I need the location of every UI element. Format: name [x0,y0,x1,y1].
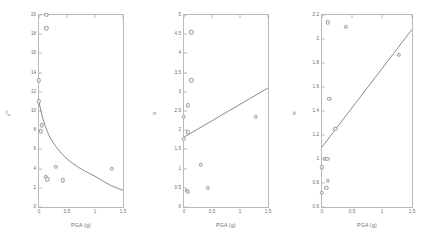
plot-area-panel-2: 00.511.522.533.544.55 00.511.5 [183,14,269,208]
y-tick-label: 10 [31,109,39,114]
x-tick-label: 1 [239,207,242,215]
x-axis-label-panel-3: PGA (g) [321,222,413,228]
x-tick-label: 0.5 [209,207,215,215]
y-tick-label: 1.8 [313,61,322,66]
y-axis-label-main-3: k [293,110,296,116]
y-tick-label: 2.5 [175,109,184,114]
panel-k: k 0.60.811.21.41.61.822.2 00.511.5 PGA (… [289,0,434,247]
y-tick-label: 18 [31,32,39,37]
x-tick-label: 1 [381,207,384,215]
y-tick-label: 0.8 [313,181,322,186]
y-axis-label-panel-1: tw [6,109,10,117]
y-tick-label: 1.5 [175,147,184,152]
fit-curve-panel-3 [322,15,412,207]
y-axis-label-sub-1: w [8,113,11,117]
x-axis-label-panel-1: PGA (g) [38,222,124,228]
y-tick-label: 1.2 [313,133,322,138]
fit-curve-panel-2 [184,15,268,207]
y-axis-label-main-2: n [153,110,156,116]
x-axis-label-panel-2: PGA (g) [183,222,269,228]
y-tick-label: 14 [31,70,39,75]
y-axis-label-panel-3: k [293,110,296,116]
plot-area-panel-1: 02468101214161820 00.511.5 [38,14,124,208]
y-tick-label: 12 [31,90,39,95]
x-tick-label: 0.5 [349,207,355,215]
y-tick-label: 16 [31,51,39,56]
y-tick-label: 1.4 [313,109,322,114]
x-tick-label: 1.5 [120,207,126,215]
x-tick-label: 0 [321,207,324,215]
x-tick-label: 1.5 [409,207,415,215]
three-panel-scatter-figure: tw 02468101214161820 00.511.5 PGA (g) n … [0,0,434,247]
panel-tw: tw 02468101214161820 00.511.5 PGA (g) [0,0,145,247]
panel-n: n 00.511.522.533.544.55 00.511.5 PGA (g) [145,0,290,247]
x-tick-label: 0 [183,207,186,215]
x-tick-label: 0 [38,207,41,215]
y-axis-label-panel-2: n [153,110,156,116]
x-tick-label: 0.5 [64,207,70,215]
x-tick-label: 1.5 [265,207,271,215]
y-tick-label: 4.5 [175,32,184,37]
y-tick-label: 1.6 [313,85,322,90]
fit-curve-panel-1 [39,15,123,207]
plot-area-panel-3: 0.60.811.21.41.61.822.2 00.511.5 [321,14,413,208]
x-tick-label: 1 [94,207,97,215]
y-tick-label: 3.5 [175,70,184,75]
y-tick-label: 0.5 [175,186,184,191]
